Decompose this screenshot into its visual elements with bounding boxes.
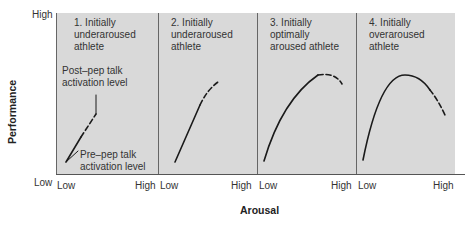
panel-4-x-tick-low: Low [358,180,376,191]
panel-3-x-tick-low: Low [259,180,277,191]
curves-layer [0,0,468,227]
panel-4-x-tick-high: High [433,180,454,191]
panel-2-x-tick-low: Low [160,180,178,191]
panel-4-post-curve [430,90,445,115]
panel-1-x-tick-low: Low [57,180,75,191]
panel-1-post-curve [81,114,96,137]
x-axis-label: Arousal [240,204,279,216]
panel-2-post-curve [200,82,218,105]
panel-1-pre-curve [66,137,81,162]
panel-3-pre-curve [264,75,318,161]
panel-2-x-tick-high: High [231,180,252,191]
panel-1-x-tick-high: High [135,180,156,191]
panel-3-x-tick-high: High [331,180,352,191]
panel-2-pre-curve [175,105,200,162]
panel-3-post-curve [318,74,342,84]
panel-4-pre-curve [363,75,430,160]
